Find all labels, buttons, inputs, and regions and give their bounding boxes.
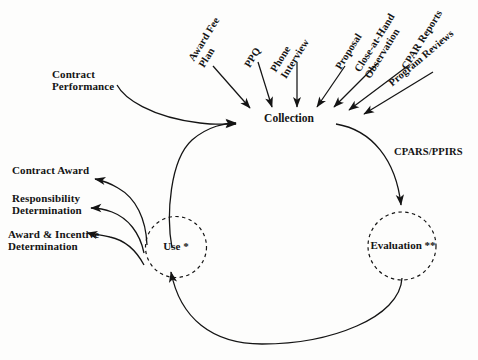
arrow-use-to-collection: [169, 123, 236, 248]
input-label-contract-performance: Contract Performance: [52, 68, 114, 93]
node-label-use: Use *: [146, 240, 206, 252]
arrow-award-fee-plan: [213, 66, 250, 108]
arrow-collection-to-evaluation: [336, 124, 401, 205]
output-label-award-incentive-determination: Award & Incentive Determination: [8, 228, 99, 253]
arrow-contract-performance-to-collection: [117, 85, 236, 124]
arrow-evaluation-to-use: [171, 272, 402, 344]
diagram-canvas: Award Fee Plan PPQ Phone Interview Propo…: [0, 0, 478, 360]
output-label-contract-award: Contract Award: [12, 164, 89, 176]
node-label-evaluation: Evaluation **: [358, 239, 448, 251]
node-label-collection: Collection: [246, 112, 332, 124]
output-label-responsibility-determination: Responsibility Determination: [12, 192, 82, 217]
edge-label-cpars-ppirs: CPARS/PPIRS: [394, 146, 463, 158]
